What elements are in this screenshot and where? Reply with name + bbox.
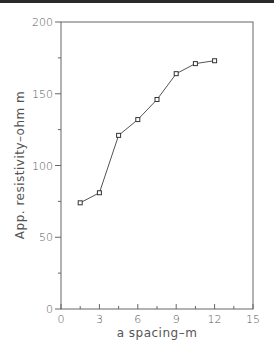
resistivity-chart: 03691215 050100150200 a spacing–m App. r…: [0, 0, 274, 350]
y-axis-label: App. resistivity–ohm m: [13, 91, 27, 239]
y-tick-label: 200: [32, 16, 53, 29]
square-marker-icon: [136, 118, 140, 122]
x-tick-label: 0: [58, 313, 65, 326]
x-axis-ticks: 03691215: [58, 304, 261, 326]
square-marker-icon: [78, 201, 82, 205]
x-tick-label: 9: [173, 313, 180, 326]
square-marker-icon: [193, 62, 197, 66]
square-marker-icon: [213, 59, 217, 63]
y-tick-label: 150: [32, 88, 53, 101]
square-marker-icon: [97, 191, 101, 195]
plot-frame: [61, 22, 253, 309]
square-marker-icon: [117, 133, 121, 137]
square-marker-icon: [174, 72, 178, 76]
series-line: [80, 61, 214, 203]
x-tick-label: 3: [96, 313, 103, 326]
square-marker-icon: [155, 97, 159, 101]
x-axis-label: a spacing–m: [117, 326, 198, 340]
y-tick-label: 0: [46, 303, 53, 316]
y-tick-label: 100: [32, 160, 53, 173]
data-series: [78, 59, 216, 205]
y-tick-label: 50: [39, 231, 53, 244]
x-tick-label: 15: [246, 313, 260, 326]
y-axis-ticks: 050100150200: [32, 16, 61, 316]
x-tick-label: 12: [208, 313, 222, 326]
x-tick-label: 6: [134, 313, 141, 326]
